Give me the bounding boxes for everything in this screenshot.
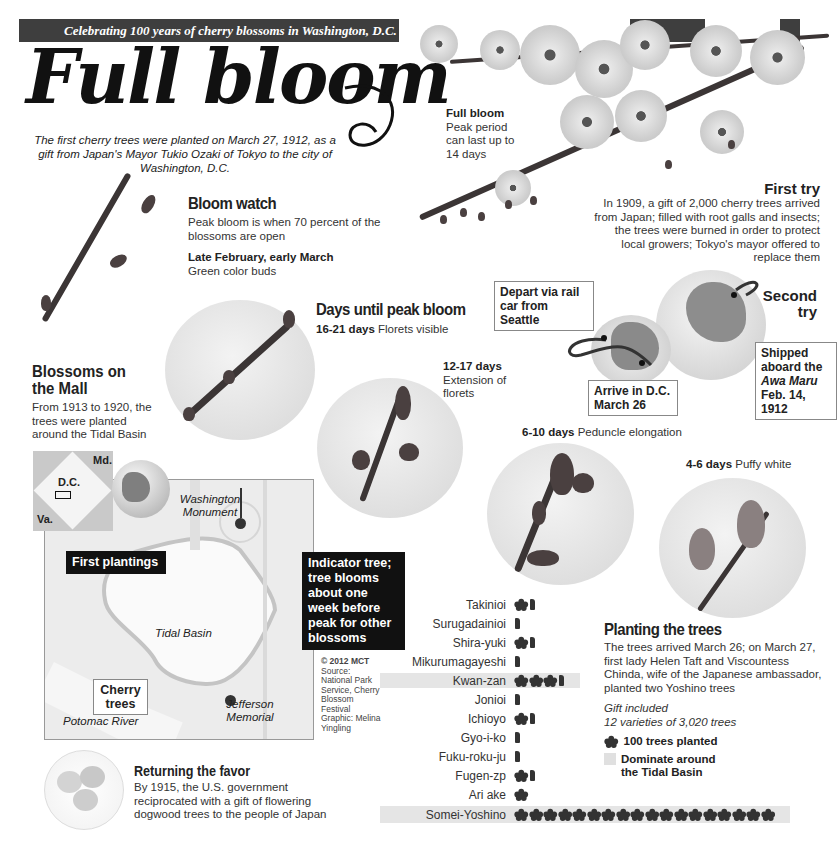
stage-16-21: 16-21 days Florets visible [316, 323, 448, 337]
cherry-blossom-icon [732, 808, 747, 821]
stage-6-10-photo [487, 443, 634, 585]
cherry-blossom-icon [558, 808, 573, 821]
bloom-watch-section: Bloom watch Peak bloom is when 70 percen… [188, 194, 388, 278]
bloom-stage-label: Late February, early March [188, 251, 388, 265]
partial-blossom-icon [515, 618, 520, 629]
arrive-dc-callout: Arrive in D.C. March 26 [588, 380, 678, 416]
chart-row: Jonioi [380, 692, 520, 707]
cherry-blossom-icon [688, 808, 703, 821]
cherry-blossom-icon [645, 808, 660, 821]
cherry-blossom-icon [601, 808, 616, 821]
cherry-blossom-icon [514, 636, 529, 649]
cherry-blossom-icon [703, 808, 718, 821]
cherry-trees-callout: Cherry trees [93, 679, 148, 715]
partial-blossom-icon [515, 694, 520, 705]
stage-4-6-photo [659, 478, 806, 618]
blossoms-mall-heading: Blossoms on the Mall [32, 363, 146, 397]
cherry-blossom-icon [529, 674, 544, 687]
chart-row: Fugen-zp [380, 768, 535, 783]
tidal-basin-label: Tidal Basin [155, 627, 212, 639]
stage-12-17-photo [317, 378, 463, 518]
chart-row: Takinioi [380, 597, 535, 612]
cherry-blossom-icon [572, 808, 587, 821]
globe-icon [112, 460, 170, 518]
cherry-blossom-icon [674, 808, 689, 821]
cherry-blossom-icon [514, 808, 529, 821]
cherry-blossom-icon [529, 808, 544, 821]
chart-row: Mikurumagayeshi [380, 654, 520, 669]
second-try-heading: Second try [757, 288, 817, 320]
credits: © 2012 MCT Source: National Park Service… [321, 657, 381, 733]
full-bloom-text: Peak period can last up to 14 days [446, 121, 516, 162]
chart-row: Gyo-i-ko [380, 730, 520, 745]
cherry-blossom-icon [587, 808, 602, 821]
partial-blossom-icon [530, 599, 535, 610]
dogwood-flower-photo [44, 750, 124, 830]
dc-region-inset-map: Md. D.C. Va. [33, 451, 113, 531]
cherry-blossom-icon [659, 808, 674, 821]
highlight-swatch [604, 753, 616, 765]
bloom-watch-heading: Bloom watch [188, 194, 364, 214]
cherry-blossom-icon [616, 808, 631, 821]
first-try-text: In 1909, a gift of 2,000 cherry trees ar… [590, 197, 820, 265]
cherry-blossom-icon [514, 598, 529, 611]
bloom-stage-desc: Green color buds [188, 265, 388, 279]
chart-row: Ari ake [380, 787, 529, 802]
partial-blossom-icon [530, 713, 535, 724]
title-swirl-decoration [340, 80, 410, 170]
partial-blossom-icon [559, 675, 564, 686]
partial-blossom-icon [515, 656, 520, 667]
depart-seattle-callout: Depart via rail car from Seattle [494, 281, 594, 331]
returning-favor-heading: Returning the favor [134, 763, 323, 779]
blossoms-mall-text: From 1913 to 1920, the trees were plante… [32, 401, 162, 442]
potomac-river-label: Potomac River [63, 715, 138, 727]
cherry-blossom-icon [514, 788, 529, 801]
chart-row-highlighted: Kwan-zan [380, 673, 580, 688]
cherry-blossom-icon [543, 808, 558, 821]
stage-12-17: 12-17 days Extension of florets [443, 360, 513, 401]
jefferson-memorial-label: Jefferson Memorial [220, 698, 280, 724]
partial-blossom-icon [530, 770, 535, 781]
map-area-indicator [55, 491, 71, 499]
cherry-blossom-icon [717, 808, 732, 821]
cherry-blossom-icon [543, 674, 558, 687]
full-bloom-section: Full bloom Peak period can last up to 14… [446, 107, 516, 161]
days-until-peak-heading: Days until peak bloom [316, 300, 466, 320]
shipped-callout: Shipped aboard the Awa Maru Feb. 14, 191… [755, 342, 837, 420]
first-try-section: First try In 1909, a gift of 2,000 cherr… [590, 180, 820, 265]
washington-monument-marker [235, 518, 246, 529]
full-bloom-heading: Full bloom [446, 107, 516, 121]
stage-16-21-photo [165, 300, 315, 440]
bloom-watch-text: Peak bloom is when 70 percent of the blo… [188, 216, 388, 243]
partial-blossom-icon [515, 751, 520, 762]
returning-favor-text: By 1915, the U.S. government reciprocate… [134, 781, 344, 822]
stage-6-10: 6-10 days Peduncle elongation [522, 426, 682, 440]
planting-heading: Planting the trees [604, 620, 798, 640]
cherry-blossom-icon [746, 808, 761, 821]
partial-blossom-icon [530, 637, 535, 648]
planting-text: The trees arrived March 26; on March 27,… [604, 641, 824, 695]
first-try-heading: First try [590, 180, 820, 197]
cherry-blossom-icon [514, 712, 529, 725]
cherry-blossom-icon [514, 674, 529, 687]
cherry-blossom-icon [604, 735, 619, 748]
subtitle: The first cherry trees were planted on M… [30, 133, 340, 175]
stage-4-6: 4-6 days Puffy white [686, 458, 791, 472]
chart-row: Surugadainioi [380, 616, 520, 631]
cherry-blossom-icon [514, 769, 529, 782]
legend-item-highlight: Dominate around the Tidal Basin [604, 753, 824, 780]
chart-row-highlighted: Somei-Yoshino [380, 806, 790, 823]
legend-item-icon: 100 trees planted [604, 735, 824, 749]
chart-row: Shira-yuki [380, 635, 535, 650]
chart-row: Ichioyo [380, 711, 535, 726]
chart-row: Fuku-roku-ju [380, 749, 520, 764]
blossoms-mall-section: Blossoms on the Mall From 1913 to 1920, … [32, 363, 162, 442]
first-plantings-callout: First plantings [66, 551, 166, 574]
washington-monument-label: Washington Monument [175, 493, 245, 519]
planting-section: Planting the trees The trees arrived Mar… [604, 620, 824, 780]
partial-blossom-icon [515, 732, 520, 743]
cherry-blossom-icon [630, 808, 645, 821]
returning-favor-section: Returning the favor By 1915, the U.S. go… [134, 763, 344, 822]
cherry-blossom-icon [761, 808, 776, 821]
